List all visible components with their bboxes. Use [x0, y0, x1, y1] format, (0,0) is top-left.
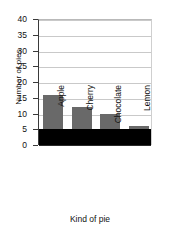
x-axis-tick-label: Chocolate — [113, 85, 124, 149]
y-axis-tick-label: 0 — [5, 141, 27, 149]
y-axis-tick-label: 30 — [5, 47, 27, 55]
y-axis-tick-label: 20 — [5, 78, 27, 86]
y-axis-tick-label: 40 — [5, 15, 27, 23]
y-axis-tick-label: 35 — [5, 31, 27, 39]
y-axis-tick-label: 5 — [5, 125, 27, 133]
y-axis-tick-mark — [33, 145, 38, 146]
x-axis-title: Kind of pie — [0, 214, 180, 224]
x-axis-tick-label: Apple — [56, 85, 67, 149]
x-axis-tick-label: Lemon — [142, 85, 153, 149]
y-axis-tick-label: 10 — [5, 110, 27, 118]
y-axis-tick-label: 15 — [5, 94, 27, 102]
y-axis-tick-label: 25 — [5, 62, 27, 70]
x-axis-tick-label: Cherry — [85, 85, 96, 149]
bar-chart: Number of pies 0510152025303540 AppleChe… — [0, 0, 180, 235]
